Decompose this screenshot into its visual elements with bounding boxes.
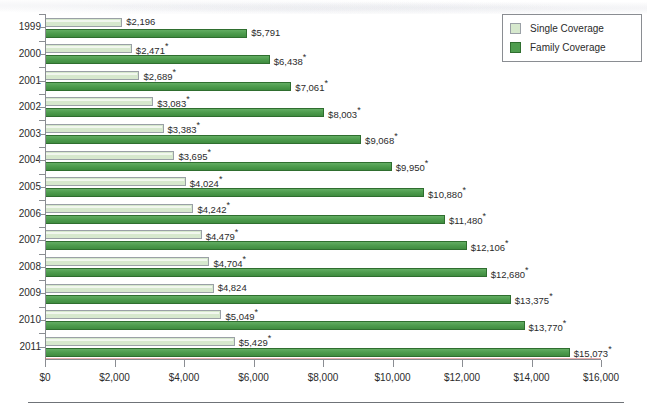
- y-axis-tick: [39, 134, 45, 135]
- y-axis-tick: [39, 67, 45, 68]
- y-axis-tick: [39, 14, 45, 15]
- bar-group: $4,024*$10,880*: [45, 174, 601, 201]
- plot-area: $2,196$5,791$2,471*$6,438*$2,689*$7,061*…: [45, 14, 601, 360]
- significance-marker: *: [303, 52, 307, 62]
- significance-marker: *: [235, 227, 239, 237]
- y-axis-tick: [39, 214, 45, 215]
- footer-divider: [28, 402, 624, 403]
- bar-group: $5,429*$15,073*: [45, 333, 601, 360]
- significance-marker: *: [505, 238, 509, 248]
- bar-family: $15,073*: [46, 348, 570, 357]
- bar-single: $2,471*: [46, 44, 132, 53]
- year-label-2001: 2001: [0, 76, 41, 86]
- significance-marker: *: [608, 345, 612, 355]
- y-axis-tick: [39, 320, 45, 321]
- significance-marker: *: [226, 201, 230, 211]
- bar-single: $4,024*: [46, 177, 186, 186]
- year-label-2006: 2006: [0, 209, 41, 219]
- bar-single: $2,689*: [46, 71, 139, 80]
- bar-value-label: $4,824: [218, 283, 247, 293]
- year-label-2003: 2003: [0, 129, 41, 139]
- significance-marker: *: [207, 147, 211, 157]
- x-axis-label: $2,000: [99, 373, 130, 383]
- bar-value-label: $13,375*: [515, 293, 553, 306]
- bar-value-label: $15,073*: [574, 346, 612, 359]
- bar-single: $5,429*: [46, 337, 235, 346]
- legend-item-single: Single Coverage: [510, 21, 633, 36]
- y-axis-tick: [39, 54, 45, 55]
- bar-value-label: $12,680*: [491, 266, 529, 279]
- bar-single: $5,049*: [46, 310, 221, 319]
- legend-swatch-family: [510, 42, 521, 53]
- x-axis-label: $0: [39, 373, 50, 383]
- bar-single: $4,824: [46, 284, 214, 293]
- bar-family: $5,791: [46, 29, 247, 38]
- bar-value-label: $4,479*: [206, 228, 239, 241]
- bar-value-label: $3,383*: [168, 122, 201, 135]
- x-axis-tick: [254, 360, 255, 367]
- significance-marker: *: [483, 212, 487, 222]
- x-axis-label: $8,000: [308, 373, 339, 383]
- bar-group: $5,049*$13,770*: [45, 307, 601, 334]
- significance-marker: *: [324, 79, 328, 89]
- bar-family: $8,003*: [46, 108, 324, 117]
- year-label-2008: 2008: [0, 262, 41, 272]
- x-axis-label: $10,000: [374, 373, 410, 383]
- y-axis-tick: [39, 267, 45, 268]
- y-axis-tick: [39, 333, 45, 334]
- year-label-2007: 2007: [0, 235, 41, 245]
- bar-value-label: $4,024*: [190, 175, 223, 188]
- significance-marker: *: [186, 94, 190, 104]
- bar-family: $11,480*: [46, 215, 445, 224]
- y-axis-tick: [39, 27, 45, 28]
- scan-artifact: [0, 0, 647, 14]
- x-axis-label: $6,000: [238, 373, 269, 383]
- bar-value-label: $9,068*: [365, 133, 398, 146]
- bar-family: $6,438*: [46, 55, 270, 64]
- bar-value-label: $2,689*: [143, 69, 176, 82]
- significance-marker: *: [525, 265, 529, 275]
- chart-legend: Single CoverageFamily Coverage: [502, 14, 642, 62]
- bar-group: $2,689*$7,061*: [45, 67, 601, 94]
- significance-marker: *: [268, 334, 272, 344]
- bar-group: $4,824$13,375*: [45, 280, 601, 307]
- significance-marker: *: [165, 41, 169, 51]
- year-label-2002: 2002: [0, 102, 41, 112]
- bar-value-label: $10,880*: [428, 186, 466, 199]
- bar-group: $4,479*$12,106*: [45, 227, 601, 254]
- y-axis-tick: [39, 147, 45, 148]
- bar-group: $3,383*$9,068*: [45, 120, 601, 147]
- significance-marker: *: [219, 174, 223, 184]
- bar-value-label: $5,429*: [239, 335, 272, 348]
- y-axis-tick: [39, 280, 45, 281]
- bar-single: $4,704*: [46, 257, 209, 266]
- bar-value-label: $5,049*: [225, 308, 258, 321]
- y-axis-tick: [39, 347, 45, 348]
- bar-single: $4,242*: [46, 204, 193, 213]
- y-axis-tick: [39, 227, 45, 228]
- chart-figure: 1999200020012002200320042005200620072008…: [0, 0, 647, 409]
- year-label-2010: 2010: [0, 315, 41, 325]
- bar-value-label: $9,950*: [396, 159, 429, 172]
- bar-family: $9,950*: [46, 162, 392, 171]
- x-axis-tick: [462, 360, 463, 367]
- year-label-2004: 2004: [0, 155, 41, 165]
- bar-value-label: $5,791: [251, 28, 280, 37]
- y-axis-tick: [39, 81, 45, 82]
- bar-value-label: $6,438*: [274, 53, 307, 66]
- bar-family: $13,375*: [46, 295, 511, 304]
- bar-value-label: $3,083*: [157, 95, 190, 108]
- bar-value-label: $2,471*: [136, 42, 169, 55]
- significance-marker: *: [243, 254, 247, 264]
- y-axis-tick: [39, 41, 45, 42]
- significance-marker: *: [255, 307, 259, 317]
- significance-marker: *: [462, 185, 466, 195]
- bar-value-label: $7,061*: [295, 80, 328, 93]
- x-axis-label: $12,000: [444, 373, 480, 383]
- y-axis-tick: [39, 187, 45, 188]
- x-axis-tick: [45, 360, 46, 367]
- bar-value-label: $11,480*: [449, 213, 486, 226]
- y-axis-tick: [39, 307, 45, 308]
- bar-family: $12,106*: [46, 241, 467, 250]
- bar-value-label: $8,003*: [328, 106, 361, 119]
